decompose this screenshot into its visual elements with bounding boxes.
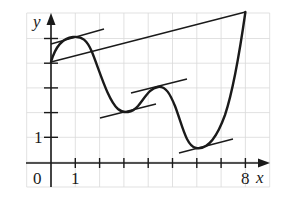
y-axis-label: y [31,12,41,31]
function-graph: y x 0 1 8 1 [0,0,286,197]
x-tick-label-8: 8 [241,169,250,188]
x-tick-label-1: 1 [71,169,80,188]
x-axis-label: x [255,168,264,187]
y-axis-arrow-icon [47,13,56,25]
x-axis-arrow-icon [258,159,270,168]
origin-label: 0 [33,169,42,188]
y-tick-label-1: 1 [34,128,43,147]
